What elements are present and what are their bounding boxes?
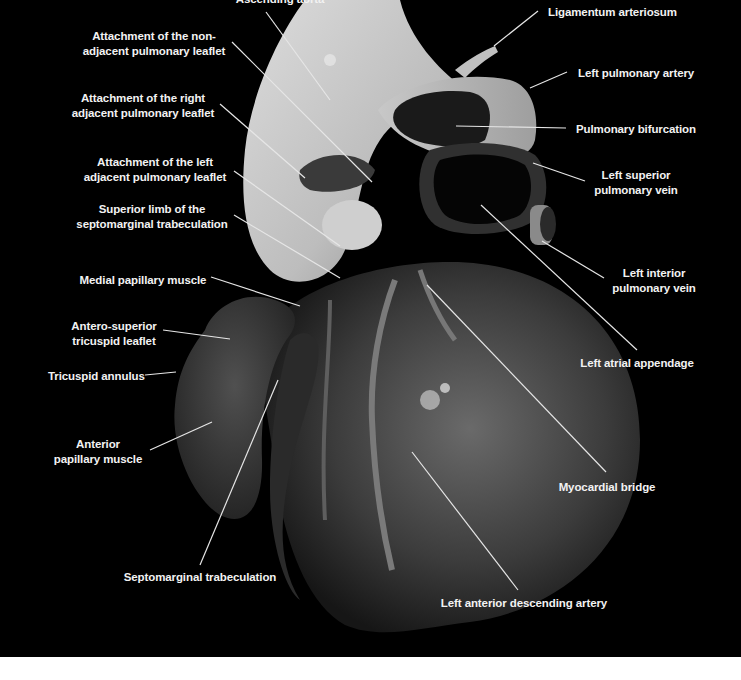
label-line: Anterior — [54, 437, 143, 452]
label-left-adjacent: Attachment of the leftadjacent pulmonary… — [84, 155, 226, 184]
label-antero-superior: Antero-superiortricuspid leaflet — [71, 319, 156, 348]
leader-line-left-superior-vein — [533, 163, 585, 181]
leader-line-superior-limb — [234, 215, 340, 278]
leader-line-pulmonary-bifurcation — [456, 126, 566, 128]
label-line: Medial papillary muscle — [80, 273, 207, 288]
page-margin — [0, 657, 741, 680]
label-line: papillary muscle — [54, 452, 143, 467]
label-line: pulmonary vein — [594, 183, 678, 198]
label-line: Left superior — [594, 168, 678, 183]
label-anterior-papillary: Anteriorpapillary muscle — [54, 437, 143, 466]
leader-line-myocardial-bridge — [427, 285, 606, 472]
label-line: Ligamentum arteriosum — [548, 5, 677, 20]
label-line: Attachment of the non- — [83, 29, 225, 44]
label-left-interior-vein: Left interiorpulmonary vein — [612, 266, 696, 295]
label-left-atrial-appendage: Left atrial appendage — [580, 356, 694, 371]
label-medial-papillary: Medial papillary muscle — [80, 273, 207, 288]
label-pulmonary-bifurcation: Pulmonary bifurcation — [576, 122, 696, 137]
label-line: Attachment of the right — [72, 91, 214, 106]
label-ascending-aorta: Ascending aorta — [236, 0, 325, 7]
label-left-pulmonary-artery: Left pulmonary artery — [578, 66, 694, 81]
leader-line-left-interior-vein — [542, 241, 604, 278]
leader-line-lad — [412, 452, 518, 590]
leader-line-left-adjacent — [234, 171, 340, 246]
leader-line-antero-superior — [163, 330, 230, 339]
label-line: adjacent pulmonary leaflet — [84, 170, 226, 185]
label-right-adjacent: Attachment of the rightadjacent pulmonar… — [72, 91, 214, 120]
leader-line-right-adjacent — [220, 104, 305, 178]
label-line: tricuspid leaflet — [71, 334, 156, 349]
anatomy-figure: Ascending aortaAttachment of the non-adj… — [0, 0, 741, 657]
label-line: Antero-superior — [71, 319, 156, 334]
label-line: Left anterior descending artery — [441, 596, 607, 611]
label-line: Left interior — [612, 266, 696, 281]
label-line: Ascending aorta — [236, 0, 325, 7]
label-line: Attachment of the left — [84, 155, 226, 170]
leader-line-tricuspid-annulus — [145, 372, 176, 375]
label-line: adjacent pulmonary leaflet — [72, 106, 214, 121]
label-line: Superior limb of the — [76, 202, 227, 217]
label-line: Left atrial appendage — [580, 356, 694, 371]
label-line: septomarginal trabeculation — [76, 217, 227, 232]
label-line: adjacent pulmonary leaflet — [83, 44, 225, 59]
leader-line-septomarginal — [200, 380, 278, 565]
label-line: Septomarginal trabeculation — [124, 570, 277, 585]
leader-line-anterior-papillary — [150, 422, 212, 450]
label-myocardial-bridge: Myocardial bridge — [559, 480, 656, 495]
leader-line-ascending-aorta — [266, 12, 330, 100]
label-line: Left pulmonary artery — [578, 66, 694, 81]
label-non-adjacent: Attachment of the non-adjacent pulmonary… — [83, 29, 225, 58]
label-line: pulmonary vein — [612, 281, 696, 296]
leader-line-ligamentum — [494, 11, 538, 46]
leader-line-non-adjacent — [232, 42, 372, 182]
label-left-superior-vein: Left superiorpulmonary vein — [594, 168, 678, 197]
label-ligamentum: Ligamentum arteriosum — [548, 5, 677, 20]
label-septomarginal: Septomarginal trabeculation — [124, 570, 277, 585]
label-line: Myocardial bridge — [559, 480, 656, 495]
label-tricuspid-annulus: Tricuspid annulus — [48, 369, 145, 384]
leader-line-medial-papillary — [211, 277, 300, 306]
label-line: Tricuspid annulus — [48, 369, 145, 384]
leader-line-left-pulmonary-artery — [530, 72, 567, 88]
label-lad: Left anterior descending artery — [441, 596, 607, 611]
label-superior-limb: Superior limb of theseptomarginal trabec… — [76, 202, 227, 231]
label-line: Pulmonary bifurcation — [576, 122, 696, 137]
